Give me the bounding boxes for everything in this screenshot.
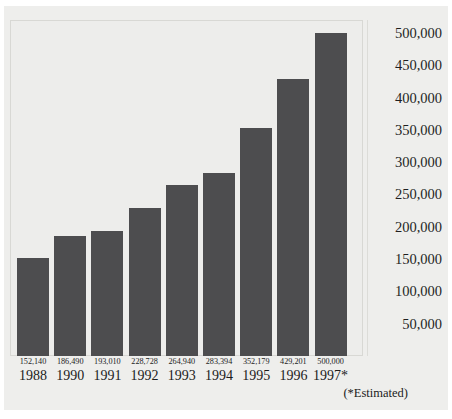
y-tick-label: 50,000 <box>402 315 442 332</box>
y-tick-label: 150,000 <box>395 251 442 268</box>
x-axis-group: 264,9401993 <box>162 356 202 384</box>
y-axis: 50,000100,000150,000200,000250,000300,00… <box>367 20 448 356</box>
x-tick-label: 1996 <box>273 367 313 384</box>
y-tick-label: 250,000 <box>395 186 442 203</box>
y-tick-label: 100,000 <box>395 283 442 300</box>
bar <box>91 231 123 356</box>
bar-value-label: 193,010 <box>87 356 127 367</box>
bar-value-label: 264,940 <box>162 356 202 367</box>
bar <box>54 236 86 357</box>
bar <box>129 208 161 356</box>
x-axis-group: 228,7281992 <box>125 356 165 384</box>
x-axis-group: 193,0101991 <box>87 356 127 384</box>
bar-value-label: 186,490 <box>50 356 90 367</box>
y-tick-label: 400,000 <box>395 89 442 106</box>
x-tick-label: 1990 <box>50 367 90 384</box>
x-tick-label: 1991 <box>87 367 127 384</box>
bar <box>240 128 272 356</box>
y-tick-label: 500,000 <box>395 24 442 41</box>
bar-value-label: 500,000 <box>311 356 351 367</box>
x-tick-label: 1995 <box>236 367 276 384</box>
x-tick-label: 1993 <box>162 367 202 384</box>
x-axis-group: 186,4901990 <box>50 356 90 384</box>
bar-value-label: 228,728 <box>125 356 165 367</box>
x-tick-label: 1992 <box>125 367 165 384</box>
bar-series <box>10 20 363 356</box>
bar-value-label: 152,140 <box>13 356 53 367</box>
x-axis-group: 500,0001997* <box>311 356 351 384</box>
x-tick-label: 1994 <box>199 367 239 384</box>
y-tick-label: 200,000 <box>395 218 442 235</box>
bar <box>17 258 49 356</box>
y-tick-label: 450,000 <box>395 57 442 74</box>
estimated-footnote: (*Estimated) <box>4 386 408 401</box>
bar-value-label: 283,394 <box>199 356 239 367</box>
x-tick-label: 1997* <box>311 367 351 384</box>
bar-value-label: 429,201 <box>273 356 313 367</box>
x-axis-group: 283,3941994 <box>199 356 239 384</box>
x-tick-label: 1988 <box>13 367 53 384</box>
bar <box>166 185 198 356</box>
y-tick-label: 350,000 <box>395 121 442 138</box>
bar <box>277 79 309 356</box>
bar <box>315 33 347 356</box>
x-axis-group: 152,1401988 <box>13 356 53 384</box>
bar <box>203 173 235 356</box>
chart-figure: THE GROWTH OF BRITS AT SEA 50,000100,000… <box>4 6 448 410</box>
x-axis-group: 352,1791995 <box>236 356 276 384</box>
x-axis-group: 429,2011996 <box>273 356 313 384</box>
y-tick-label: 300,000 <box>395 154 442 171</box>
bar-value-label: 352,179 <box>236 356 276 367</box>
